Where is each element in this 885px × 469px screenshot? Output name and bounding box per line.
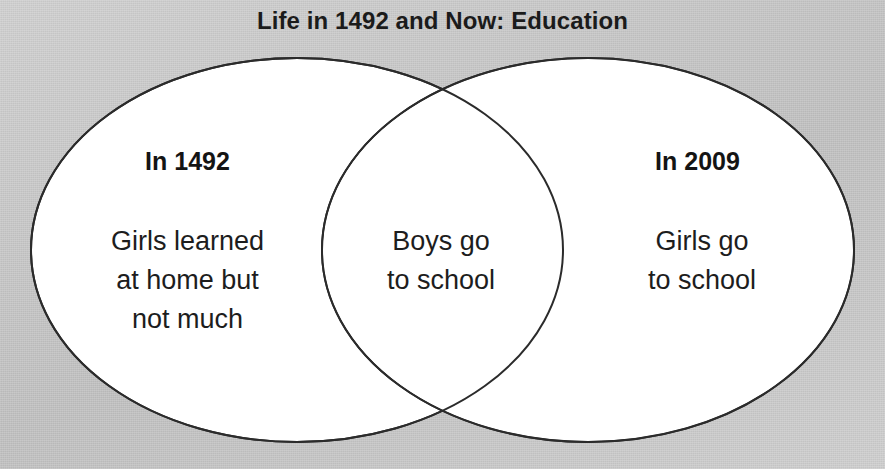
venn-intersection-text: Boys go to school xyxy=(325,222,557,300)
venn-left-text: Girls learned at home but not much xyxy=(66,222,309,339)
venn-diagram-page: Life in 1492 and Now: Education In 1492 … xyxy=(0,0,885,469)
venn-left-line-2: at home but xyxy=(66,261,309,300)
venn-left-heading: In 1492 xyxy=(80,146,295,176)
venn-right-line-1: Girls go xyxy=(586,222,818,261)
venn-right-text: Girls go to school xyxy=(586,222,818,300)
venn-right-line-2: to school xyxy=(586,261,818,300)
venn-center-line-1: Boys go xyxy=(325,222,557,261)
venn-left-line-1: Girls learned xyxy=(66,222,309,261)
venn-right-heading: In 2009 xyxy=(590,146,805,176)
venn-left-line-3: not much xyxy=(66,300,309,339)
venn-center-line-2: to school xyxy=(325,261,557,300)
